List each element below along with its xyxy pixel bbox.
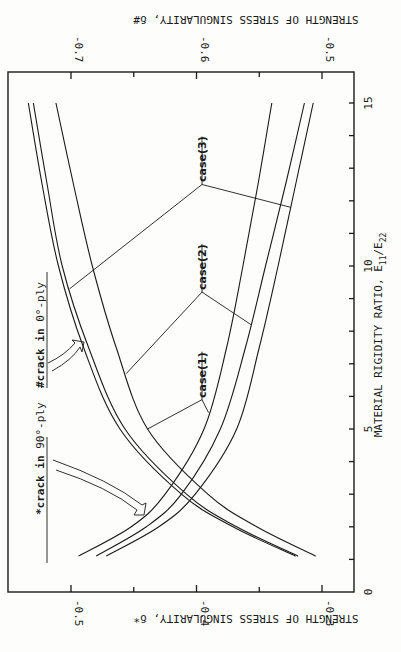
y-top-tick-label: -0.5: [323, 36, 336, 63]
y-top-tick-label: -0.7: [72, 36, 85, 63]
case-leader-3: [70, 185, 291, 289]
label-case-3: case(3): [196, 136, 209, 182]
x-tick-label: 0: [362, 589, 375, 596]
star-marker: *: [34, 508, 47, 515]
series-line-crack0-1: [28, 103, 295, 556]
x-tick-label: 15: [362, 96, 375, 109]
x-axis-title-sub1: 11: [379, 255, 388, 265]
arrow-0-ply-icon: [48, 340, 84, 371]
arrow-90-ply-icon: [53, 460, 146, 515]
label-case-1: case(1): [196, 352, 209, 398]
x-axis-title-main: MATERIAL RIGIDITY RATIO, E: [372, 265, 385, 437]
y-top-tick-label: -0.6: [198, 36, 211, 63]
label-crack-90-ply: *crack in 90°-ply: [34, 402, 47, 515]
label-crack-0-ply: #crack in 0°-ply: [34, 282, 47, 388]
crack90-text: crack in: [34, 449, 47, 509]
y-bottom-tick-label: -0.5: [72, 600, 85, 627]
x-axis-title-sub2: 22: [379, 232, 388, 242]
crack0-text: crack in: [34, 322, 47, 382]
series-line-crack90-3: [106, 103, 313, 556]
crack0-ply: 0°-ply: [34, 282, 47, 322]
y-axis-bottom-title: STRENGTH OF STRESS SINGULARITY, δ*: [133, 612, 358, 625]
series-line-crack0-2: [33, 103, 298, 556]
y-axis-top-title: STRENGTH OF STRESS SINGULARITY, δ#: [133, 13, 359, 26]
case-leader-2: [126, 292, 251, 374]
case-leader-1: [148, 400, 209, 429]
plot-frame: [8, 72, 354, 592]
label-case-2: case(2): [196, 244, 209, 290]
x-axis-title-slash: /E: [372, 242, 385, 255]
crack90-ply: 90°-ply: [34, 402, 47, 449]
stress-singularity-chart: 051015-0.5-0.4-0.3-0.7-0.6-0.5 STRENGTH …: [0, 0, 401, 652]
